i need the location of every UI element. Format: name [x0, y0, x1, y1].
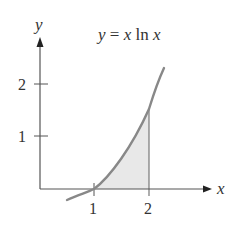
title-eq: =	[106, 25, 124, 44]
title-x2: x	[152, 25, 161, 44]
tick-label-y2: 2	[18, 76, 26, 93]
tick-label-x1: 1	[89, 200, 97, 217]
tick-label-x2: 2	[144, 200, 152, 217]
x-axis-label: x	[216, 179, 225, 198]
chart-title: y = x ln x	[96, 25, 161, 44]
y-axis-label: y	[33, 15, 43, 34]
tick-label-y1: 1	[18, 128, 26, 145]
title-ln: ln	[131, 25, 153, 44]
y-axis-arrow-icon	[37, 37, 44, 47]
chart: y x 1 2 1 2 y = x ln x	[0, 0, 240, 231]
shaded-area	[94, 109, 149, 189]
x-axis-arrow-icon	[203, 186, 212, 193]
title-y: y	[96, 25, 106, 44]
